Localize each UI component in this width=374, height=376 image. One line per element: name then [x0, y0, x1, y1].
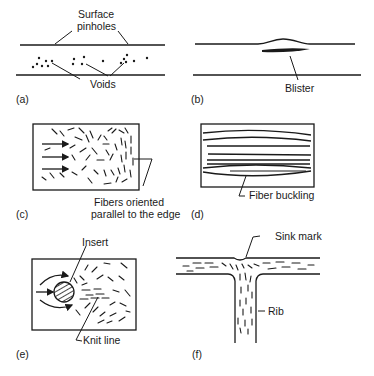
- rib-fibers: [183, 262, 314, 334]
- label-blister: Blister: [285, 82, 315, 94]
- panel-f: Sink mark Rib (f): [176, 230, 322, 360]
- label-pinholes: pinholes: [77, 20, 116, 32]
- insert-leader: [70, 246, 86, 282]
- sink-mark-leader: [246, 236, 260, 257]
- pinhole-leader-left: [55, 31, 72, 44]
- label-rib: Rib: [268, 305, 284, 317]
- panel-label-d: (d): [191, 208, 204, 220]
- label-surface: Surface: [78, 8, 114, 20]
- panel-d: Fiber buckling (d): [191, 124, 315, 220]
- panel-a: Surface pinholes Voids (a): [16, 8, 165, 105]
- label-sink-mark: Sink mark: [275, 230, 322, 242]
- panel-label-f: (f): [192, 348, 202, 360]
- mold-cavity-e: [32, 259, 136, 330]
- blister-leader: [290, 56, 298, 80]
- top-wall-line: [176, 258, 320, 260]
- panel-e: Insert Knit line (e): [16, 236, 136, 360]
- buckled-fibers: [203, 130, 311, 175]
- panel-label-e: (e): [16, 348, 29, 360]
- label-parallel-edge: parallel to the edge: [91, 208, 180, 220]
- buckling-leader: [239, 176, 246, 196]
- defects-diagram: Surface pinholes Voids (a) Blister (b): [0, 0, 374, 376]
- panel-label-a: (a): [16, 93, 29, 105]
- random-fibers: [42, 128, 133, 184]
- panel-label-b: (b): [191, 93, 204, 105]
- label-insert: Insert: [82, 236, 108, 248]
- panel-label-c: (c): [16, 208, 28, 220]
- panel-c: Fibers oriented parallel to the edge (c): [16, 124, 180, 220]
- insert-circle: [54, 282, 74, 302]
- knit-line-fibers: [74, 263, 130, 323]
- pinhole-leader-right: [118, 31, 128, 44]
- label-fiber-buckling: Fiber buckling: [249, 189, 315, 201]
- void-leader-1: [52, 63, 80, 79]
- void-leader-2: [86, 64, 108, 76]
- flow-arrows: [42, 144, 68, 169]
- label-voids: Voids: [90, 78, 116, 90]
- void-leader-3: [110, 63, 124, 76]
- blister-surface-line: [195, 39, 355, 44]
- panel-b: Blister (b): [191, 39, 361, 105]
- label-fibers-oriented: Fibers oriented: [94, 196, 164, 208]
- rib-left-wall: [176, 274, 235, 343]
- blister-shape: [262, 48, 310, 52]
- edge-fiber-leader: [134, 159, 152, 186]
- rib-right-wall: [256, 274, 320, 343]
- label-knit-line: Knit line: [83, 334, 121, 346]
